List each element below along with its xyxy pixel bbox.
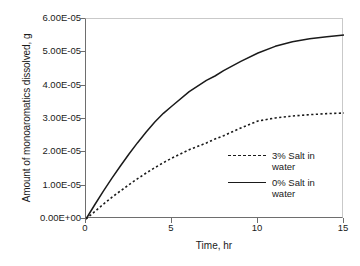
x-tick-mark [171, 218, 172, 223]
x-tick-label: 15 [328, 222, 358, 233]
legend-swatch-solid-icon [228, 182, 266, 186]
x-tick-label: 0 [70, 222, 100, 233]
y-tick-label: 4.00E-05 [23, 80, 81, 90]
y-tick-label: 2.00E-05 [23, 146, 81, 156]
x-tick-mark [85, 218, 86, 223]
x-tick-mark [343, 218, 344, 223]
legend-label-3pct: 3% Salt in water [272, 150, 338, 172]
legend-item-0pct: 0% Salt in water [228, 177, 338, 199]
x-tick-label: 5 [156, 222, 186, 233]
y-tick-mark [80, 151, 85, 152]
chart-figure: Amount of monoaromatics dissolved, g 0.0… [0, 0, 360, 266]
legend-label-0pct: 0% Salt in water [272, 177, 338, 199]
y-tick-mark [80, 118, 85, 119]
chart-legend: 3% Salt in water 0% Salt in water [228, 150, 338, 204]
y-tick-label: 6.00E-05 [23, 13, 81, 23]
y-tick-mark [80, 85, 85, 86]
x-axis-title: Time, hr [85, 240, 343, 251]
y-tick-label: 3.00E-05 [23, 113, 81, 123]
y-tick-mark [80, 51, 85, 52]
y-tick-mark [80, 185, 85, 186]
x-tick-mark [257, 218, 258, 223]
y-tick-label: 5.00E-05 [23, 46, 81, 56]
x-tick-label: 10 [242, 222, 272, 233]
legend-item-3pct: 3% Salt in water [228, 150, 338, 172]
legend-swatch-dashed-icon [228, 155, 266, 159]
y-tick-label: 1.00E-05 [23, 180, 81, 190]
y-tick-mark [80, 18, 85, 19]
